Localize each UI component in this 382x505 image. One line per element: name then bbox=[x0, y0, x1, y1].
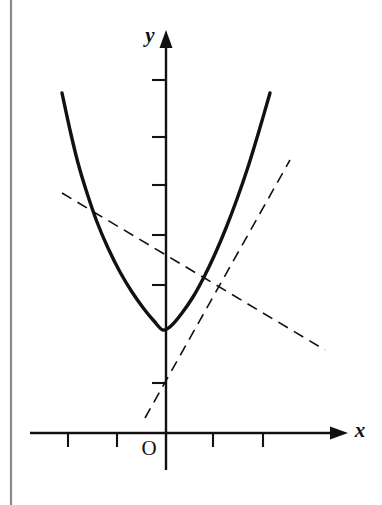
axes-group bbox=[30, 30, 348, 470]
y-axis-arrow-icon bbox=[160, 30, 173, 48]
y-axis-label: y bbox=[142, 23, 155, 47]
plot-svg: y x O bbox=[0, 0, 382, 505]
x-axis-arrow-icon bbox=[330, 427, 348, 440]
figure-canvas: y x O bbox=[0, 0, 382, 505]
origin-label: O bbox=[141, 436, 156, 460]
y-axis-ticks bbox=[152, 80, 166, 383]
secant-dashed-line bbox=[62, 193, 325, 350]
x-axis-label: x bbox=[354, 418, 366, 442]
